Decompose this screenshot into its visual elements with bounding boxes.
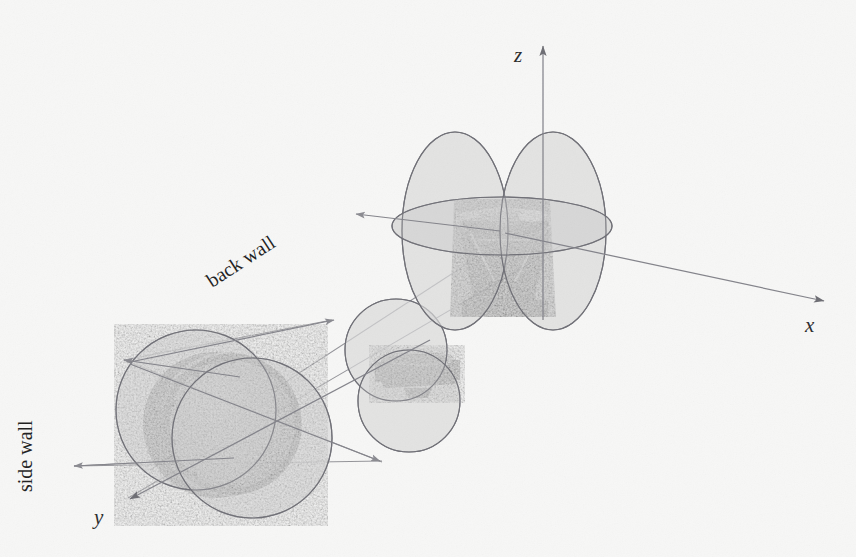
axis-label-y: y bbox=[92, 505, 104, 529]
middle-lobe-lower-outline bbox=[358, 350, 460, 452]
axis-label-x: x bbox=[804, 313, 815, 337]
back-lobe-horizontal-outline bbox=[392, 197, 612, 255]
side-lobe-lower-outline bbox=[172, 358, 332, 518]
antenna-pattern-svg: z x y back wall side wall bbox=[0, 0, 856, 557]
axis-label-z: z bbox=[513, 43, 522, 67]
figure-canvas: z x y back wall side wall bbox=[0, 0, 856, 557]
label-side-wall: side wall bbox=[14, 420, 36, 492]
